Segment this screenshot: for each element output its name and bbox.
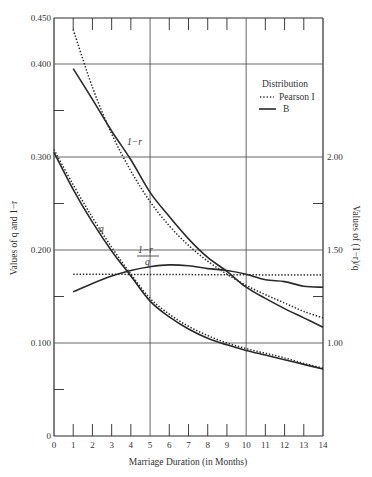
legend: Distribution Pearson I B (259, 79, 315, 114)
x-tick-label: 13 (299, 440, 309, 450)
x-tick-label: 5 (148, 440, 153, 450)
x-tick-label: 14 (319, 440, 329, 450)
x-tick-label: 2 (90, 440, 95, 450)
x-tick-label: 7 (186, 440, 191, 450)
series-line-3 (54, 150, 323, 369)
y-tick-label-right: 1.50 (327, 245, 343, 255)
x-tick-label: 12 (280, 440, 289, 450)
y-tick-label-left: 0.300 (31, 152, 52, 162)
legend-label-b: B (283, 104, 289, 114)
legend-label-pearson: Pearson I (279, 92, 315, 102)
annotation-ratio-denominator: q (145, 257, 150, 267)
x-tick-label: 9 (225, 440, 230, 450)
y-tick-label-right: 1.00 (327, 338, 343, 348)
x-tick-label: 3 (109, 440, 114, 450)
x-tick-label: 0 (52, 440, 57, 450)
annotation-q: q (99, 224, 104, 234)
y-tick-label-left: 0 (47, 431, 52, 441)
x-tick-label: 8 (205, 440, 210, 450)
x-axis-title: Marriage Duration (in Months) (129, 457, 247, 468)
y-axis-title-left: Values of q and 1−r (9, 200, 19, 275)
y-axis-title-right: Values of (1−r)/q (350, 206, 361, 271)
y-tick-label-left: 0.200 (31, 245, 52, 255)
y-tick-label-left: 0.100 (31, 338, 52, 348)
annotation-ratio-numerator: 1−r (138, 245, 153, 255)
series-line-4 (73, 265, 323, 292)
y-tick-label-left: 0.450 (31, 13, 52, 23)
chart: 0123456789101112131400.1000.2000.3000.40… (0, 0, 372, 477)
series-line-2 (54, 152, 323, 369)
legend-title: Distribution (262, 79, 308, 89)
y-tick-label-right: 2.00 (327, 152, 343, 162)
series-line-5 (73, 274, 323, 275)
x-tick-label: 11 (261, 440, 270, 450)
y-tick-label-left: 0.400 (31, 59, 52, 69)
annotation-1-minus-r: 1−r (127, 137, 142, 147)
x-tick-label: 4 (129, 440, 134, 450)
x-tick-label: 1 (71, 440, 76, 450)
x-tick-label: 6 (167, 440, 172, 450)
x-tick-label: 10 (242, 440, 252, 450)
